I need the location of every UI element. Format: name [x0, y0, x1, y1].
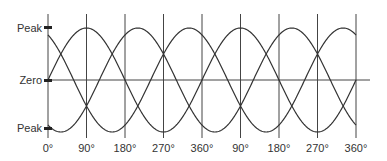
x-axis-labels: 0°90°180°270°360°90°180°270°360° — [43, 142, 368, 154]
x-tick-label: 360° — [191, 142, 214, 154]
x-tick-label: 270° — [152, 142, 175, 154]
x-tick-label: 180° — [268, 142, 291, 154]
x-tick-label: 270° — [306, 142, 329, 154]
y-label-zero: Zero — [19, 74, 42, 86]
zero-tick — [44, 79, 52, 82]
x-tick-label: 180° — [114, 142, 137, 154]
peak-bottom-tick — [44, 127, 52, 130]
x-tick-label: 0° — [43, 142, 54, 154]
y-label-peak-bottom: Peak — [17, 122, 43, 134]
x-tick-label: 90° — [78, 142, 95, 154]
x-tick-label: 90° — [232, 142, 249, 154]
y-label-peak-top: Peak — [17, 22, 43, 34]
three-phase-waveform-chart: Peak Zero Peak 0°90°180°270°360°90°180°2… — [0, 0, 387, 161]
x-tick-label: 360° — [345, 142, 368, 154]
peak-top-tick — [44, 26, 52, 29]
